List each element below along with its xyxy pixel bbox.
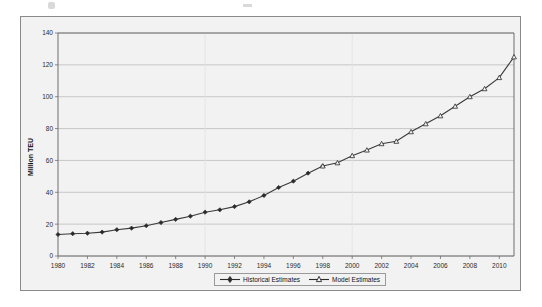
x-tick-label: 2002 [374, 262, 389, 269]
x-tick-label: 1992 [227, 262, 242, 269]
x-tick-label: 2006 [433, 262, 448, 269]
data-point-marker [100, 230, 104, 234]
data-point-marker [232, 205, 236, 209]
data-point-marker [512, 54, 517, 58]
legend-item-historical: Historical Estimates [220, 275, 300, 284]
data-series [56, 54, 517, 236]
x-tick-label: 2010 [492, 262, 507, 269]
chart-plot-area: 020406080100120140 198019821984198619881… [21, 17, 522, 292]
scan-artifact-left [48, 2, 55, 9]
chart-legend: Historical Estimates Model Estimates [214, 273, 386, 286]
y-axis-title: Million TEU [27, 138, 34, 176]
y-axis-ticks: 020406080100120140 [42, 29, 58, 259]
data-point-marker [56, 232, 60, 236]
x-tick-label: 1986 [139, 262, 154, 269]
legend-marker-filled-icon [220, 275, 240, 284]
y-tick-label: 0 [49, 252, 53, 259]
series-historical [56, 164, 325, 237]
x-tick-label: 2004 [404, 262, 419, 269]
data-point-marker [71, 232, 75, 236]
x-tick-label: 1996 [286, 262, 301, 269]
data-point-marker [423, 121, 428, 125]
y-tick-label: 40 [46, 189, 54, 196]
x-tick-label: 2000 [345, 262, 360, 269]
y-tick-label: 140 [42, 29, 53, 36]
series-model [320, 54, 516, 168]
scan-artifacts [0, 0, 542, 14]
data-point-marker [262, 193, 266, 197]
data-point-marker [115, 228, 119, 232]
vertical-gridlines [205, 33, 352, 256]
data-point-marker [129, 226, 133, 230]
legend-item-model: Model Estimates [309, 275, 380, 284]
x-tick-label: 1994 [257, 262, 272, 269]
x-tick-label: 1990 [198, 262, 213, 269]
y-tick-label: 60 [46, 157, 54, 164]
x-tick-label: 1988 [168, 262, 183, 269]
x-tick-label: 2008 [463, 262, 478, 269]
legend-label-historical: Historical Estimates [243, 276, 300, 283]
data-point-marker [335, 160, 340, 164]
data-point-marker [306, 171, 310, 175]
data-point-marker [277, 185, 281, 189]
y-tick-label: 120 [42, 61, 53, 68]
x-tick-label: 1984 [110, 262, 125, 269]
data-point-marker [409, 129, 414, 133]
y-tick-label: 20 [46, 221, 54, 228]
data-point-marker [218, 208, 222, 212]
x-tick-label: 1982 [80, 262, 95, 269]
data-point-marker [203, 210, 207, 214]
x-tick-label: 1980 [51, 262, 66, 269]
legend-label-model: Model Estimates [332, 276, 380, 283]
data-point-marker [247, 200, 251, 204]
x-tick-label: 1998 [316, 262, 331, 269]
y-tick-label: 100 [42, 93, 53, 100]
data-point-marker [291, 179, 295, 183]
x-axis-ticks: 1980198219841986198819901992199419961998… [51, 256, 507, 269]
scan-artifact-right [243, 4, 252, 7]
axes [58, 33, 514, 256]
gridlines [58, 33, 514, 256]
data-point-marker [188, 214, 192, 218]
data-point-marker [85, 231, 89, 235]
y-tick-label: 80 [46, 125, 54, 132]
data-point-marker [174, 217, 178, 221]
line-chart: 020406080100120140 198019821984198619881… [21, 17, 522, 292]
figure-frame: 020406080100120140 198019821984198619881… [20, 16, 521, 291]
legend-marker-open-icon [309, 275, 329, 284]
